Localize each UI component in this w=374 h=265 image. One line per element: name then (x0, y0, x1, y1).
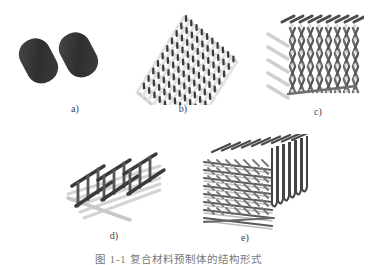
panel-c-label: c) (314, 106, 322, 117)
figure-caption: 图 1-1 复合材料预制体的结构形式 (95, 251, 285, 265)
panel-e-label: e) (241, 232, 249, 243)
panel-a-capsules (16, 24, 106, 88)
panel-b-label: b) (179, 103, 187, 114)
panel-d-rod-grid (60, 144, 172, 222)
panel-d-label: d) (110, 230, 118, 241)
panel-a-label: a) (71, 103, 79, 114)
panel-e-braided-block (198, 134, 310, 230)
panel-c-3d-lattice-block (260, 12, 364, 102)
panel-b-woven-lattice (128, 13, 240, 105)
